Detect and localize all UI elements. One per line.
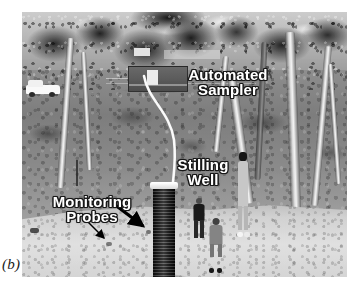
probe-head-center [106,242,112,246]
person-legs [194,220,204,238]
callout-stilling-well: Stilling Well [166,157,240,187]
person-torso [210,225,223,245]
probe-head-left [30,228,39,233]
vehicle-wheel-rear [49,92,55,97]
person-shoe-left [209,268,214,273]
field-photograph: Automated Sampler Stilling Well Monitori… [22,12,347,277]
person-legs [210,244,222,270]
person-head [213,218,220,225]
white-vehicle [26,80,60,97]
distant-building [164,50,220,59]
callout-automated-sampler: Automated Sampler [178,67,278,97]
callout-monitoring-probes: Monitoring Probes [48,194,136,224]
person-shoe-right [244,232,250,237]
person-shoe-right [217,268,222,273]
distant-shed [134,48,150,56]
photo-scene: Automated Sampler Stilling Well Monitori… [22,12,347,277]
probe-stake [76,160,78,186]
probe-head-right [146,230,151,234]
vehicle-wheel-front [29,92,35,97]
person-torso [194,204,205,221]
person-head [239,152,247,161]
stilling-well [153,188,175,277]
person-shoe-left [237,232,243,237]
vehicle-cab [28,80,43,87]
figure-sublabel: (b) [2,256,20,273]
person-dark-shirt [192,198,206,240]
person-light-shirt [208,218,224,276]
